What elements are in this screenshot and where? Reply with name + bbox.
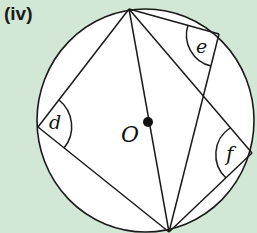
- part-label: (iv): [4, 4, 33, 23]
- diagram-svg: [0, 0, 257, 233]
- center-point: [143, 117, 153, 127]
- angle-label-e: e: [196, 37, 207, 56]
- angle-label-d: d: [49, 113, 61, 132]
- center-label: O: [121, 124, 139, 146]
- circle-theorem-diagram: (iv) O d e f: [0, 0, 257, 233]
- angle-label-f: f: [226, 144, 233, 164]
